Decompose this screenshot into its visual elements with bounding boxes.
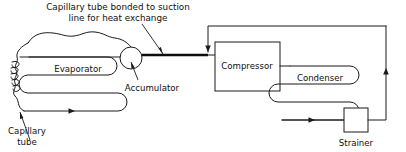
strainer-body (344, 108, 368, 132)
capillary-return-arrowhead (205, 46, 211, 53)
callout-title-line-1: Capillary tube bonded to suction (46, 2, 190, 12)
diagram-canvas: Capillary tube bonded to suction line fo… (0, 0, 406, 152)
suction-line-wavy-upper (28, 32, 131, 47)
accumulator-label: Accumulator (125, 83, 180, 93)
capillary-tube-leader-arrowhead (20, 112, 23, 119)
capillary-coil-turn-5 (13, 85, 20, 91)
capillary-tube-label-line-1: Capillary (8, 126, 46, 136)
callout-title-line-2: line for heat exchange (69, 13, 168, 23)
condenser-label: Condenser (297, 73, 344, 83)
capillary-coil-turn-2 (11, 67, 18, 73)
refrigeration-cycle-diagram: Capillary tube bonded to suction line fo… (0, 0, 406, 152)
evaporator-flow-arrowhead (69, 108, 76, 114)
suction-line-left-riser (14, 43, 28, 111)
liquid-line-right-riser (368, 26, 386, 120)
accumulator-body (120, 47, 142, 69)
strainer-label: Strainer (339, 138, 374, 148)
evaporator-label: Evaporator (54, 64, 102, 74)
compressor-label: Compressor (221, 61, 273, 71)
liquid-line-riser-arrowhead (383, 68, 389, 75)
capillary-tube-label-line-2: tube (17, 137, 37, 147)
